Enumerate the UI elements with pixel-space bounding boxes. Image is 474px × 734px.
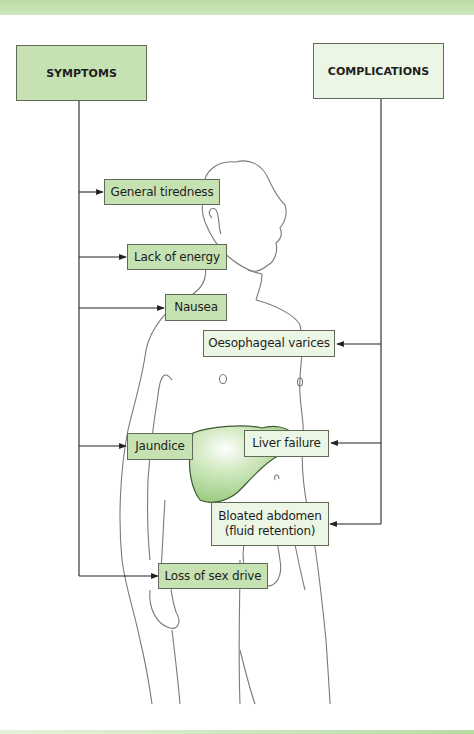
complication-liver-failure: Liver failure	[244, 430, 329, 457]
symptom-lack-of-energy: Lack of energy	[127, 244, 227, 270]
complication-oesophageal-varices: Oesophageal varices	[203, 330, 335, 357]
bottom-color-band	[0, 730, 474, 734]
symptom-nausea: Nausea	[165, 294, 227, 321]
symptom-jaundice: Jaundice	[127, 433, 193, 460]
symptoms-header: SYMPTOMS	[16, 45, 147, 101]
symptom-loss-of-sex-drive: Loss of sex drive	[158, 563, 268, 589]
complications-header: COMPLICATIONS	[313, 43, 444, 99]
complication-bloated-abdomen: Bloated abdomen (fluid retention)	[211, 502, 329, 546]
symptom-general-tiredness: General tiredness	[104, 179, 220, 205]
diagram-artwork	[0, 0, 474, 734]
